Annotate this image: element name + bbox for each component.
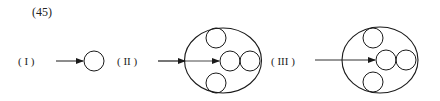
stage-3-group: [315, 27, 418, 93]
single-circle: [84, 51, 104, 71]
right-circle-3: [396, 50, 416, 70]
top-circle-2: [206, 28, 226, 48]
diagram-canvas: [0, 0, 440, 101]
bottom-circle-2: [206, 73, 226, 93]
top-circle-3: [363, 28, 383, 48]
bottom-circle-3: [363, 72, 383, 92]
stage-2-group: [158, 28, 262, 93]
center-circle-2: [220, 51, 240, 71]
stage-1-group: [56, 51, 104, 71]
right-circle-2: [240, 51, 260, 71]
outer-ellipse-2: [185, 28, 262, 93]
center-circle-3: [376, 50, 396, 70]
